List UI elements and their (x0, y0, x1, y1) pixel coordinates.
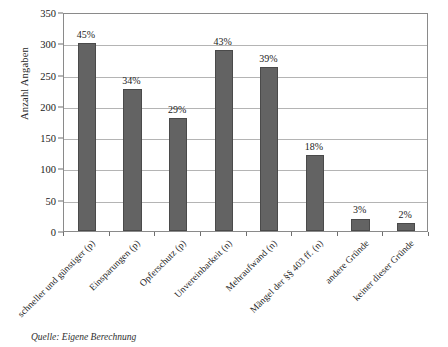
bar-value-label: 29% (168, 104, 186, 115)
y-axis-tick-label: 50 (16, 195, 56, 206)
gridline (64, 139, 427, 140)
bar-value-label: 3% (353, 204, 366, 215)
y-axis-tick-label: 100 (16, 164, 56, 175)
plot-area (63, 13, 428, 232)
x-axis-category-label: Opferschutz (p) (138, 238, 188, 288)
bar (397, 223, 415, 231)
gridline (64, 45, 427, 46)
y-axis-tick-label: 250 (16, 70, 56, 81)
x-axis-tick-mark (63, 232, 64, 236)
x-axis-tick-mark (154, 232, 155, 236)
bar (351, 219, 369, 232)
bar (78, 43, 96, 231)
bar (123, 89, 141, 231)
y-axis-tick-label: 300 (16, 39, 56, 50)
x-axis-tick-mark (428, 232, 429, 236)
y-axis-tick-label: 350 (16, 8, 56, 19)
bar-value-label: 39% (259, 53, 277, 64)
x-axis-tick-mark (200, 232, 201, 236)
bar (306, 155, 324, 231)
bar-value-label: 43% (214, 36, 232, 47)
bar-value-label: 34% (122, 75, 140, 86)
bar (260, 67, 278, 231)
y-axis-tick-label: 0 (16, 227, 56, 238)
x-axis-category-label: Einsparungen (p) (88, 238, 143, 293)
y-axis-tick-label: 200 (16, 101, 56, 112)
x-axis-category-label: andere Gründe (323, 238, 371, 286)
x-axis-tick-mark (246, 232, 247, 236)
x-axis-tick-mark (291, 232, 292, 236)
gridline (64, 202, 427, 203)
bar-value-label: 18% (305, 141, 323, 152)
gridline (64, 77, 427, 78)
bar-chart-figure: Anzahl Angaben 050100150200250300350 45%… (0, 0, 448, 347)
x-axis-tick-mark (337, 232, 338, 236)
x-axis-category-label: schneller und günstiger (p) (16, 238, 97, 319)
x-axis-tick-mark (382, 232, 383, 236)
bar (215, 50, 233, 231)
y-axis-tick-label: 150 (16, 133, 56, 144)
gridline (64, 170, 427, 171)
bar-value-label: 45% (77, 29, 95, 40)
bar-value-label: 2% (399, 209, 412, 220)
x-axis-tick-mark (109, 232, 110, 236)
bar (169, 118, 187, 231)
gridline (64, 108, 427, 109)
source-note: Quelle: Eigene Berechnung (31, 332, 136, 342)
